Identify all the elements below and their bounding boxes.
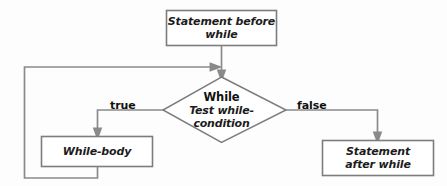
edge-false-branch [286, 110, 378, 138]
node-while-test-shape [163, 77, 286, 143]
node-while-body-shape [42, 137, 153, 167]
node-statement-before-shape [167, 11, 277, 46]
flowchart-canvas: Statement before while While Test while-… [0, 0, 447, 186]
node-statement-after-shape [323, 141, 434, 176]
flowchart-graphics [0, 0, 447, 186]
edge-true-branch [98, 110, 164, 134]
